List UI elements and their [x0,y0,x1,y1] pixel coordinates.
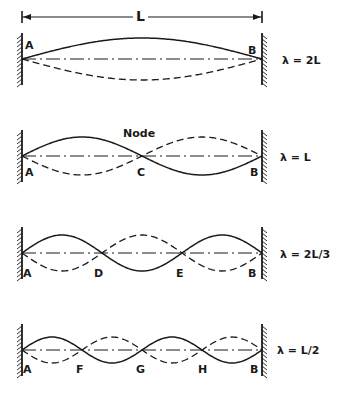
p4-node-label-f: F [76,364,84,375]
p1-end-label-a: A [25,40,34,51]
p3-end-label-b: B [248,268,256,279]
arrowhead-right-icon [253,14,261,20]
p4-wavelength-label: λ = L/2 [277,345,320,356]
arrowhead-left-icon [23,14,31,20]
p1-wavelength-label: λ = 2L [282,55,321,66]
p2-node-label-c: C [137,167,145,178]
p3-wavelength-label: λ = 2L/3 [280,249,330,260]
p2-end-label-b: B [250,167,258,178]
p1-wave-solid [22,38,262,59]
p2-wavelength-label: λ = L [280,152,311,163]
p4-node-label-g: G [136,364,145,375]
p4-node-label-h: H [198,364,207,375]
p2-end-label-a: A [25,167,34,178]
p2-node-caption: Node [123,128,155,139]
p3-node-label-e: E [176,268,184,279]
p1-wave-dashed [22,59,262,80]
p1-end-label-b: B [248,45,256,56]
p3-end-label-a: A [23,268,32,279]
p3-node-label-d: D [94,268,103,279]
p4-end-label-b: B [250,364,258,375]
length-label: L [133,9,148,23]
p4-end-label-a: A [23,364,32,375]
standing-wave-diagram: L A B λ = 2L Node A C B λ = L A D E B λ … [0,0,337,393]
